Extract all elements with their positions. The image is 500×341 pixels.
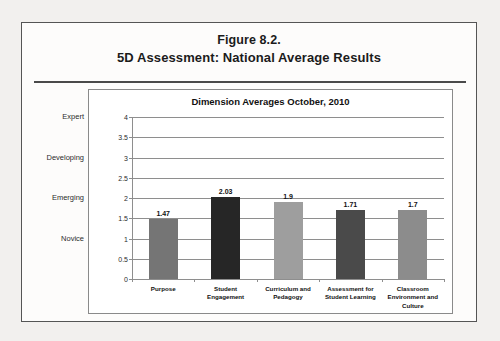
bar-chart: Dimension Averages October, 2010 00.511.… <box>88 89 453 314</box>
bar-value-label: 1.47 <box>156 210 170 217</box>
bar-value-label: 1.9 <box>283 193 293 200</box>
category-label: Purpose <box>132 282 194 316</box>
bar-slot: 1.47 <box>132 117 194 279</box>
title-divider <box>34 81 466 83</box>
bar: 1.47 <box>149 219 178 279</box>
figure-page: Figure 8.2. 5D Assessment: National Aver… <box>21 22 477 322</box>
category-label: Curriculum and Pedagogy <box>257 282 319 316</box>
x-tick-mark <box>444 279 445 282</box>
category-label: Assessment for Student Learning <box>319 282 381 316</box>
bars-group: 1.472.031.91.711.7 <box>132 117 444 279</box>
y-axis-tick-label: 0.5 <box>118 255 128 262</box>
x-axis-line <box>132 279 444 280</box>
band-label-emerging: Emerging <box>52 193 84 202</box>
category-label: Student Engagement <box>194 282 256 316</box>
performance-band-labels: Expert Developing Emerging Novice <box>22 106 88 296</box>
bar-slot: 1.71 <box>319 117 381 279</box>
bar-value-label: 2.03 <box>219 188 233 195</box>
figure-title: Figure 8.2. 5D Assessment: National Aver… <box>22 31 476 68</box>
bar-value-label: 1.7 <box>408 201 418 208</box>
figure-title-line2: 5D Assessment: National Average Results <box>22 49 476 68</box>
category-label: Classroom Environment and Culture <box>382 282 444 316</box>
bar-slot: 2.03 <box>194 117 256 279</box>
band-label-novice: Novice <box>61 234 84 243</box>
y-axis-tick-label: 1 <box>124 235 128 242</box>
category-labels: PurposeStudent EngagementCurriculum and … <box>132 282 444 316</box>
y-axis-tick-label: 0 <box>124 276 128 283</box>
plot-area: 00.511.522.533.54 1.472.031.91.711.7 <box>132 117 444 279</box>
bar-slot: 1.7 <box>382 117 444 279</box>
bar: 1.9 <box>274 202 303 279</box>
bar: 1.7 <box>398 210 427 279</box>
bar-slot: 1.9 <box>257 117 319 279</box>
bar-value-label: 1.71 <box>344 201 358 208</box>
y-axis-tick-label: 2.5 <box>118 174 128 181</box>
y-axis-tick-label: 4 <box>124 114 128 121</box>
y-axis-tick-label: 1.5 <box>118 215 128 222</box>
figure-title-line1: Figure 8.2. <box>217 33 281 47</box>
band-label-developing: Developing <box>46 153 84 162</box>
y-axis-tick-label: 3.5 <box>118 134 128 141</box>
chart-title: Dimension Averages October, 2010 <box>89 96 452 107</box>
bar: 1.71 <box>336 210 365 279</box>
bar: 2.03 <box>211 197 240 279</box>
y-axis-tick-label: 3 <box>124 154 128 161</box>
band-label-expert: Expert <box>62 112 84 121</box>
y-axis-tick-label: 2 <box>124 195 128 202</box>
